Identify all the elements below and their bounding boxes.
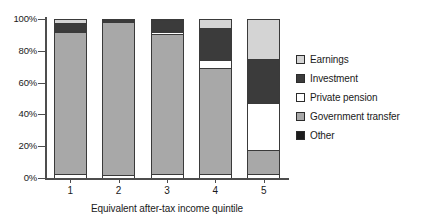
x-axis-tick-label: 4 — [195, 185, 235, 197]
y-axis-tick — [38, 114, 45, 115]
legend-item: Government transfer — [296, 107, 400, 126]
y-axis-tick-label: 80% — [1, 46, 37, 56]
y-axis-tick — [38, 178, 45, 179]
legend-label: Government transfer — [310, 111, 400, 122]
bar-segment-investment — [200, 28, 231, 61]
legend-label: Investment — [310, 73, 358, 84]
bar-segment-private-pension — [248, 103, 279, 151]
bar-segment-earnings — [248, 19, 279, 60]
bar-quintile-2 — [102, 19, 135, 178]
chart-figure: 0%20%40%60%80%100% 12345 Equivalent afte… — [0, 0, 433, 224]
y-axis-tick — [38, 83, 45, 84]
y-axis-labels: 0%20%40%60%80%100% — [0, 0, 37, 224]
bar-segment-investment — [248, 59, 279, 104]
legend-label: Earnings — [310, 54, 349, 65]
x-axis-tick-label: 5 — [244, 185, 284, 197]
y-axis-tick — [38, 51, 45, 52]
plot-area — [46, 19, 288, 178]
y-axis-tick-label: 20% — [1, 141, 37, 151]
bar-quintile-4 — [199, 19, 232, 178]
legend-swatch-icon — [296, 74, 305, 83]
bar-segment-government-transfer — [103, 22, 134, 176]
bar-segment-government-transfer — [200, 68, 231, 175]
chart-legend: EarningsInvestmentPrivate pensionGovernm… — [296, 50, 400, 145]
y-axis-tick — [38, 146, 45, 147]
legend-item: Earnings — [296, 50, 400, 69]
x-axis-tick — [70, 178, 71, 183]
legend-item: Other — [296, 126, 400, 145]
legend-item: Investment — [296, 69, 400, 88]
x-axis-tick — [119, 178, 120, 183]
legend-swatch-icon — [296, 55, 305, 64]
legend-swatch-icon — [296, 131, 305, 140]
x-axis-tick — [167, 178, 168, 183]
x-axis-title: Equivalent after-tax income quintile — [36, 203, 298, 215]
legend-swatch-icon — [296, 93, 305, 102]
bar-quintile-5 — [247, 19, 280, 178]
y-axis-tick-label: 60% — [1, 78, 37, 88]
legend-swatch-icon — [296, 112, 305, 121]
bar-quintile-3 — [151, 19, 184, 178]
bar-segment-government-transfer — [248, 150, 279, 175]
x-axis-tick — [264, 178, 265, 183]
legend-item: Private pension — [296, 88, 400, 107]
y-axis-tick-label: 40% — [1, 109, 37, 119]
y-axis-tick-label: 0% — [1, 173, 37, 183]
x-axis-tick — [215, 178, 216, 183]
bar-segment-government-transfer — [152, 34, 183, 176]
x-axis-tick-label: 3 — [147, 185, 187, 197]
legend-label: Other — [310, 130, 335, 141]
bar-quintile-1 — [54, 19, 87, 178]
y-axis-tick-label: 100% — [1, 14, 37, 24]
x-axis-tick-label: 1 — [50, 185, 90, 197]
legend-label: Private pension — [310, 92, 377, 103]
y-axis-tick — [38, 19, 45, 20]
x-axis-tick-label: 2 — [99, 185, 139, 197]
bar-segment-government-transfer — [55, 32, 86, 175]
